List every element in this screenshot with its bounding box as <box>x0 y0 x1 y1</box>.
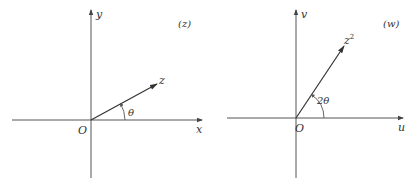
w-plane-panel: v (w) z2 2θ O u <box>227 8 405 178</box>
origin-label-left: O <box>78 124 87 137</box>
plane-label-z: (z) <box>178 18 191 29</box>
vector-superscript: 2 <box>350 33 354 41</box>
mapping-diagram: y (z) z θ O x v (w) z2 2θ O u <box>0 0 417 190</box>
theta-label: θ <box>128 107 134 118</box>
two-theta-label: 2θ <box>316 95 329 106</box>
x-axis-label: x <box>196 123 203 136</box>
plane-label-w: (w) <box>383 18 399 29</box>
y-axis-label: y <box>95 8 103 21</box>
z-plane-panel: y (z) z θ O x <box>12 8 203 178</box>
z-vector <box>91 84 157 120</box>
origin-label-right: O <box>295 122 304 135</box>
u-axis-label: u <box>398 121 405 134</box>
vector-label-z: z <box>158 74 165 87</box>
z-squared-vector <box>296 46 344 118</box>
vector-label-z-squared: z2 <box>343 33 354 47</box>
theta-angle-arc <box>121 104 126 121</box>
v-axis-label: v <box>301 8 308 21</box>
